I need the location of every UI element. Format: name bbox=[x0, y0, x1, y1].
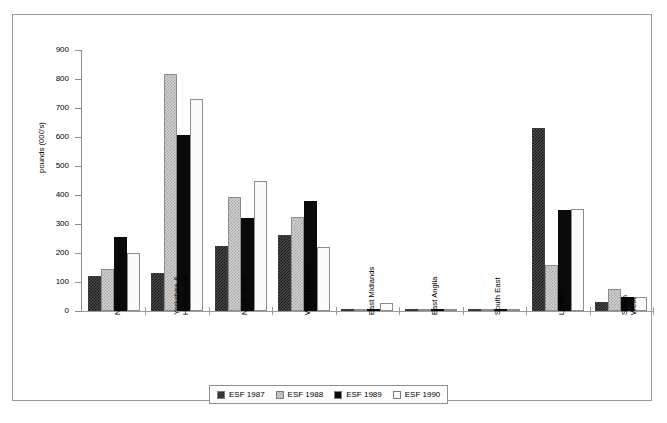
legend-label: ESF 1988 bbox=[288, 391, 324, 399]
bar bbox=[545, 265, 558, 311]
bar-group bbox=[526, 50, 589, 311]
y-axis-tick-label: 600 bbox=[25, 133, 69, 141]
x-axis-category-label: West Midlands bbox=[304, 265, 313, 315]
bar-group bbox=[82, 50, 145, 311]
chart-frame: pounds (000's) 0100200300400500600700800… bbox=[12, 14, 652, 401]
bar bbox=[88, 276, 101, 311]
bar-group bbox=[463, 50, 526, 311]
chart-legend: ESF 1987ESF 1988ESF 1989ESF 1990 bbox=[209, 385, 448, 404]
x-axis-group-tick bbox=[336, 307, 337, 315]
bar bbox=[101, 269, 114, 311]
y-axis-tick-label: 500 bbox=[25, 162, 69, 170]
x-axis-group-tick bbox=[399, 307, 400, 315]
x-axis-group-tick bbox=[209, 307, 210, 315]
x-axis-group-tick bbox=[272, 307, 273, 315]
legend-label: ESF 1987 bbox=[229, 391, 265, 399]
bar bbox=[380, 303, 393, 311]
x-axis-category-label: North bbox=[114, 296, 123, 315]
bar-group bbox=[209, 50, 272, 311]
bar-group bbox=[590, 50, 653, 311]
bar bbox=[354, 309, 367, 311]
x-axis-category-label: Yorkshire & Humberside bbox=[173, 274, 190, 315]
bar bbox=[341, 309, 354, 311]
x-axis-category-label: East Midlands bbox=[368, 267, 377, 315]
bar bbox=[405, 309, 418, 311]
x-axis-group-tick bbox=[590, 307, 591, 315]
x-axis-category-label: East Anglia bbox=[431, 276, 440, 315]
x-axis-group-tick bbox=[526, 307, 527, 315]
bar bbox=[215, 246, 228, 311]
bar-group bbox=[399, 50, 462, 311]
x-axis-category-label: North West bbox=[241, 277, 250, 315]
legend-item[interactable]: ESF 1990 bbox=[393, 391, 441, 399]
x-axis-group-tick bbox=[145, 307, 146, 315]
bar bbox=[127, 253, 140, 311]
chart-figure: pounds (000's) 0100200300400500600700800… bbox=[0, 0, 667, 423]
bar bbox=[317, 247, 330, 311]
y-axis-tick-label: 900 bbox=[25, 46, 69, 54]
y-axis-tick-label: 800 bbox=[25, 75, 69, 83]
x-axis-category-label: South East bbox=[494, 277, 503, 315]
legend-swatch-icon bbox=[217, 391, 225, 399]
bar bbox=[228, 197, 241, 311]
legend-swatch-icon bbox=[276, 391, 284, 399]
bar-group bbox=[145, 50, 208, 311]
bar bbox=[278, 235, 291, 311]
bar bbox=[571, 209, 584, 311]
y-axis-tick-label: 100 bbox=[25, 278, 69, 286]
bar bbox=[444, 309, 457, 311]
bar bbox=[532, 128, 545, 311]
bar bbox=[254, 181, 267, 311]
x-axis-group-tick bbox=[653, 307, 654, 315]
legend-label: ESF 1990 bbox=[405, 391, 441, 399]
legend-item[interactable]: ESF 1988 bbox=[276, 391, 324, 399]
bar bbox=[418, 309, 431, 311]
y-axis-tick-label: 200 bbox=[25, 249, 69, 257]
x-axis-group-tick bbox=[463, 307, 464, 315]
x-axis-category-label: London bbox=[558, 289, 567, 315]
legend-item[interactable]: ESF 1989 bbox=[334, 391, 382, 399]
y-axis-tick-label: 0 bbox=[25, 307, 69, 315]
legend-label: ESF 1989 bbox=[346, 391, 382, 399]
bar bbox=[595, 302, 608, 311]
bar bbox=[507, 309, 520, 311]
bar bbox=[468, 309, 481, 311]
bar bbox=[151, 273, 164, 311]
legend-item[interactable]: ESF 1987 bbox=[217, 391, 265, 399]
bar bbox=[190, 99, 203, 311]
x-axis-category-label: South West bbox=[621, 285, 638, 315]
legend-swatch-icon bbox=[334, 391, 342, 399]
y-axis-tick-label: 400 bbox=[25, 191, 69, 199]
legend-swatch-icon bbox=[393, 391, 401, 399]
y-axis-tick-label: 700 bbox=[25, 104, 69, 112]
y-axis-tick-label: 300 bbox=[25, 220, 69, 228]
